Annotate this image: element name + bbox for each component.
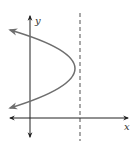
parabola-curve: [10, 30, 75, 108]
x-axis-label: x: [124, 121, 130, 132]
y-axis-label: y: [34, 15, 41, 26]
parabola-graph: y x: [0, 0, 139, 145]
